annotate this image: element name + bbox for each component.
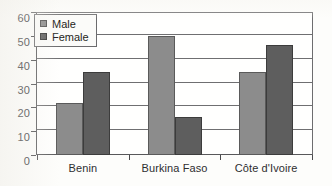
y-tick-mark [31, 84, 36, 85]
x-tick-mark [312, 155, 313, 160]
chart-legend: Male Female [34, 14, 97, 47]
bar-chart-screenshot: 0102030405060 BeninBurkina FasoCôte d'Iv… [0, 0, 332, 186]
x-tick-mark [220, 155, 221, 160]
y-tick-mark [31, 131, 36, 132]
x-tick-mark [37, 155, 38, 160]
bar-female-0 [83, 72, 110, 155]
y-tick-mark [31, 12, 36, 13]
legend-item-male: Male [40, 17, 89, 30]
legend-swatch-female-icon [40, 33, 47, 40]
y-axis: 0102030405060 [0, 12, 30, 155]
bar-female-1 [175, 117, 202, 155]
bar-male-0 [56, 103, 83, 155]
y-tick-mark [31, 60, 36, 61]
bar-male-2 [239, 72, 266, 155]
x-axis: BeninBurkina FasoCôte d'Ivoire [36, 162, 313, 180]
bar-female-2 [266, 45, 293, 155]
legend-item-female: Female [40, 30, 89, 43]
y-tick-mark [31, 107, 36, 108]
legend-swatch-male-icon [40, 20, 47, 27]
x-category-label: Côte d'Ivoire [235, 162, 298, 174]
x-axis-ticks [36, 155, 313, 160]
legend-label-male: Male [52, 18, 76, 30]
x-category-label: Burkina Faso [141, 162, 207, 174]
bar-male-1 [148, 36, 175, 155]
x-category-label: Benin [69, 162, 98, 174]
x-tick-mark [129, 155, 130, 160]
legend-label-female: Female [52, 31, 89, 43]
